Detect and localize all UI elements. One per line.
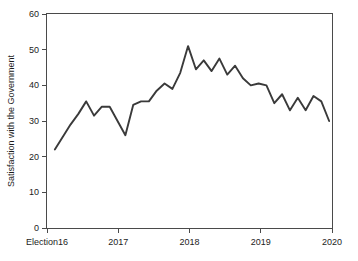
x-tick-label: 2019 [251, 237, 271, 247]
x-tick-label: 2017 [108, 237, 128, 247]
y-tick-label: 30 [29, 116, 39, 126]
y-tick-label: 60 [29, 9, 39, 19]
y-tick-label: 0 [34, 223, 39, 233]
y-axis-title: Satisfaction with the Government [6, 54, 16, 187]
chart-figure: 0 10 20 30 40 50 [0, 0, 358, 261]
x-tick-label: 2018 [179, 237, 199, 247]
y-tick-label: 40 [29, 80, 39, 90]
x-tick-label: Election16 [26, 237, 68, 247]
line-chart-svg: 0 10 20 30 40 50 [0, 0, 358, 261]
y-tick-label: 20 [29, 152, 39, 162]
chart-background [0, 0, 358, 261]
y-tick-label: 50 [29, 45, 39, 55]
x-tick-label: 2020 [322, 237, 342, 247]
y-tick-label: 10 [29, 187, 39, 197]
